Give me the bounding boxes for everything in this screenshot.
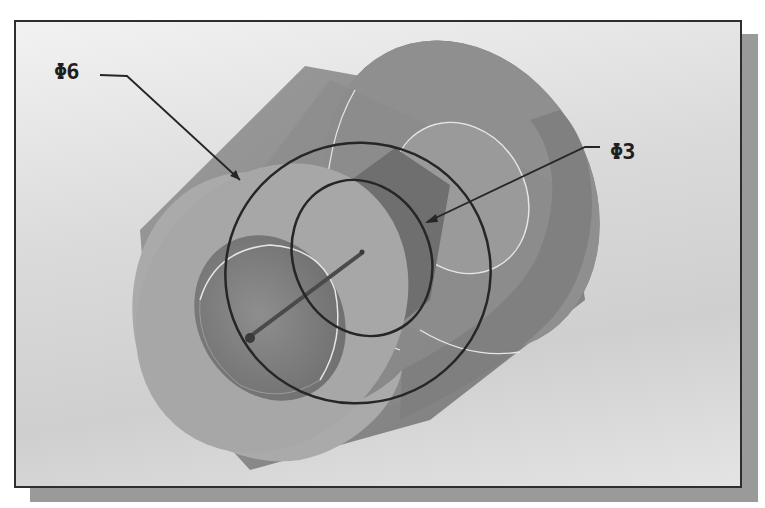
axis-endpoint xyxy=(245,333,255,343)
dimension-label-inner-diameter: Φ3 xyxy=(610,139,635,164)
axis-origin xyxy=(360,250,365,255)
cylinder-model xyxy=(0,0,765,508)
dimension-label-outer-diameter: Φ6 xyxy=(54,59,79,84)
